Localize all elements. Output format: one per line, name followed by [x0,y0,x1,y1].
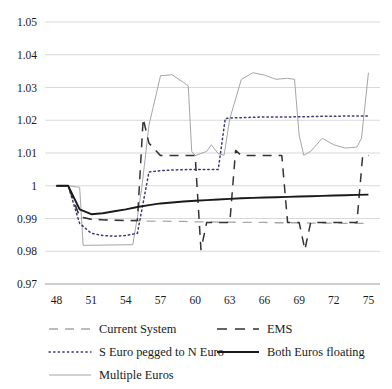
x-axis-tick-labels: 48515457606366697275 [51,294,375,306]
legend-label-ems: EMS [267,322,292,336]
legend-item-current-system[interactable]: Current System [48,318,176,340]
x-tick-label: 63 [224,294,236,306]
legend-item-multiple-euros[interactable]: Multiple Euros [48,364,174,386]
x-tick-label: 54 [120,294,132,306]
x-tick-label: 75 [363,294,375,306]
y-tick-label: 1 [31,180,37,192]
legend-label-multiple-euros: Multiple Euros [99,368,174,382]
x-tick-label: 66 [259,294,271,306]
series-line [57,186,369,224]
legend-swatch-current-system [48,323,92,335]
legend-swatch-ems [216,323,260,335]
y-tick-label: 1.05 [17,16,37,28]
y-tick-label: 1.01 [17,147,37,159]
y-tick-label: 1.03 [17,82,37,94]
y-tick-label: 1.04 [17,49,37,61]
legend-label-s-euro-pegged: S Euro pegged to N Euro [99,345,224,359]
y-axis-tick-labels: 1.051.041.031.021.0110.990.980.97 [17,16,37,290]
legend-label-both-euros-floating: Both Euros floating [267,345,365,359]
x-tick-label: 48 [51,294,63,306]
legend-item-both-euros-floating[interactable]: Both Euros floating [216,341,365,363]
x-tick-label: 69 [293,294,305,306]
y-tick-label: 0.99 [17,213,37,225]
legend-swatch-s-euro-pegged [48,346,92,358]
series-line [57,186,369,214]
data-series-group [57,73,369,250]
y-tick-label: 0.98 [17,245,37,257]
chart-legend: Current System EMS S Euro pegged to N Eu… [0,318,392,389]
x-tick-label: 51 [85,294,97,306]
plot-area: 1.051.041.031.021.0110.990.980.97 485154… [0,0,392,315]
legend-item-ems[interactable]: EMS [216,318,292,340]
y-tick-label: 1.02 [17,114,37,126]
x-tick-label: 60 [189,294,201,306]
x-tick-label: 57 [155,294,167,306]
y-tick-label: 0.97 [17,278,37,290]
legend-label-current-system: Current System [99,322,176,336]
x-tick-label: 72 [328,294,340,306]
chart-container: 1.051.041.031.021.0110.990.980.97 485154… [0,0,392,389]
legend-item-s-euro-pegged[interactable]: S Euro pegged to N Euro [48,341,224,363]
legend-swatch-multiple-euros [48,369,92,381]
legend-swatch-both-euros-floating [216,346,260,358]
chart-svg: 1.051.041.031.021.0110.990.980.97 485154… [0,0,392,315]
